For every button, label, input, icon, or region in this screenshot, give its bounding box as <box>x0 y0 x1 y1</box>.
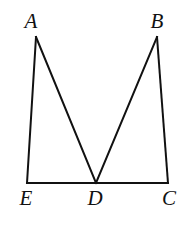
geometry-figure: A B E D C <box>0 0 184 240</box>
segment-BC <box>157 37 168 183</box>
vertex-label-B: B <box>151 11 164 32</box>
vertex-label-E: E <box>20 188 33 209</box>
vertex-label-A: A <box>25 11 38 32</box>
vertex-label-D: D <box>87 188 102 209</box>
segment-DB <box>96 37 157 183</box>
vertex-label-C: C <box>162 188 176 209</box>
segment-EA <box>27 37 36 183</box>
segment-AD <box>36 37 96 183</box>
segment-group <box>27 37 168 183</box>
